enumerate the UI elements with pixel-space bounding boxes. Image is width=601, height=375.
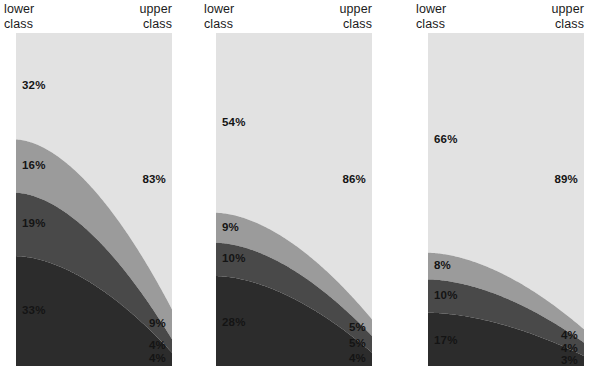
axis-label-line: lower	[4, 2, 34, 17]
value-label-upper-3: 4%	[116, 339, 166, 351]
axis-label-line: class	[112, 17, 172, 32]
value-label-upper-1: 83%	[116, 173, 166, 185]
value-label-lower-1: 32%	[22, 79, 46, 91]
axis-label-line: class	[524, 17, 584, 32]
axis-label-line: lower	[416, 2, 446, 17]
axis-label-lower-class: lowerclass	[4, 2, 34, 31]
plot-area	[428, 33, 584, 366]
value-label-lower-3: 19%	[22, 217, 46, 229]
value-label-upper-4: 4%	[116, 352, 166, 364]
value-label-lower-2: 8%	[434, 259, 451, 271]
value-label-lower-3: 10%	[222, 252, 246, 264]
value-label-upper-3: 5%	[316, 337, 366, 349]
value-label-upper-1: 86%	[316, 173, 366, 185]
axis-label-line: class	[204, 17, 234, 32]
axis-label-line: lower	[204, 2, 234, 17]
axis-label-line: upper	[312, 2, 372, 17]
axis-label-line: upper	[112, 2, 172, 17]
value-label-upper-4: 4%	[316, 352, 366, 364]
axis-label-line: class	[312, 17, 372, 32]
value-label-lower-4: 17%	[434, 334, 458, 346]
axis-label-upper-class: upperclass	[312, 2, 372, 31]
value-label-upper-3: 4%	[528, 342, 578, 354]
axis-label-line: class	[4, 17, 34, 32]
axis-label-lower-class: lowerclass	[416, 2, 446, 31]
value-label-upper-2: 4%	[528, 329, 578, 341]
value-label-lower-2: 9%	[222, 221, 239, 233]
axis-label-upper-class: upperclass	[524, 2, 584, 31]
axis-label-upper-class: upperclass	[112, 2, 172, 31]
value-label-lower-4: 33%	[22, 304, 46, 316]
value-label-upper-4: 3%	[528, 354, 578, 366]
value-label-lower-3: 10%	[434, 289, 458, 301]
value-label-lower-1: 54%	[222, 116, 246, 128]
value-label-lower-2: 16%	[22, 159, 46, 171]
axis-label-line: upper	[524, 2, 584, 17]
value-label-upper-2: 9%	[116, 317, 166, 329]
axis-label-lower-class: lowerclass	[204, 2, 234, 31]
value-label-lower-1: 66%	[434, 133, 458, 145]
value-label-upper-1: 89%	[528, 173, 578, 185]
axis-label-line: class	[416, 17, 446, 32]
value-label-upper-2: 5%	[316, 321, 366, 333]
value-label-lower-4: 28%	[222, 316, 246, 328]
stacked-area-chart: lowerclassupperclass32%16%19%33%83%9%4%4…	[0, 0, 601, 375]
